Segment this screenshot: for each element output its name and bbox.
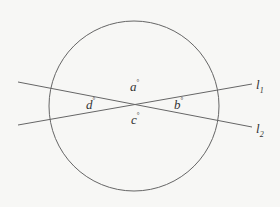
geometry-svg [0, 0, 280, 207]
line-label-l1: l1 [256, 78, 264, 91]
angle-label-a: a° [130, 80, 139, 93]
angle-label-c: c° [131, 113, 140, 126]
line-label-l2: l2 [256, 122, 264, 135]
circle [49, 21, 219, 191]
angle-label-d: d° [86, 98, 95, 111]
angle-label-b: b° [174, 98, 183, 111]
diagram-canvas: a° b° c° d° l1 l2 [0, 0, 280, 207]
